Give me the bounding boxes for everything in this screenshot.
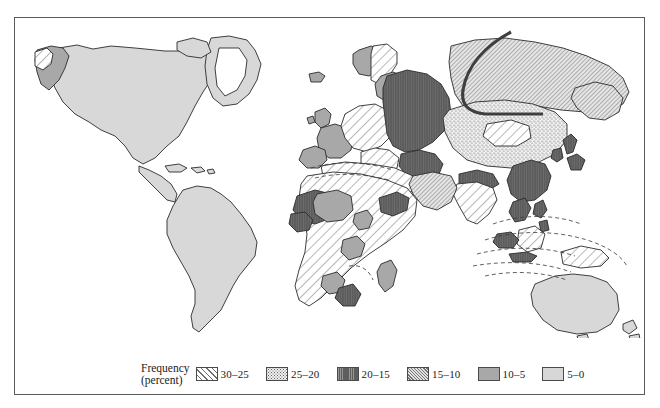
legend-item-20-15[interactable]: 20–15 <box>337 367 391 381</box>
legend-label-30-25: 30–25 <box>221 368 250 380</box>
region-tasmania <box>577 334 589 338</box>
legend-swatch-30-25 <box>196 367 218 381</box>
world-map <box>15 18 644 338</box>
region-caribbean <box>165 164 215 174</box>
region-new-guinea <box>561 246 609 268</box>
legend-item-30-25[interactable]: 30–25 <box>196 367 250 381</box>
region-iceland <box>309 72 325 82</box>
region-indochina <box>509 198 531 222</box>
legend-item-25-20[interactable]: 25–20 <box>266 367 320 381</box>
region-iberia <box>299 146 327 168</box>
legend-swatch-20-15 <box>337 367 359 381</box>
legend-label-5-0: 5–0 <box>567 368 584 380</box>
legend-swatch-15-10 <box>407 367 429 381</box>
map-legend: Frequency (percent) 30–25 25–20 20–15 15… <box>15 354 644 394</box>
legend-label-15-10: 15–10 <box>432 368 461 380</box>
region-greenland <box>205 36 261 106</box>
legend-item-5-0[interactable]: 5–0 <box>542 367 584 381</box>
legend-label-25-20: 25–20 <box>291 368 320 380</box>
legend-swatch-5-0 <box>542 367 564 381</box>
region-south-america <box>167 186 257 332</box>
legend-swatch-25-20 <box>266 367 288 381</box>
legend-label-10-5: 10–5 <box>503 368 526 380</box>
legend-swatch-10-5 <box>478 367 500 381</box>
legend-item-10-5[interactable]: 10–5 <box>478 367 526 381</box>
figure-frame: Frequency (percent) 30–25 25–20 20–15 15… <box>14 17 645 395</box>
region-india-peninsular <box>453 182 497 224</box>
region-new-zealand <box>623 320 641 338</box>
region-south-china <box>507 160 551 202</box>
legend-title: Frequency (percent) <box>141 362 190 386</box>
figure-root: Frequency (percent) 30–25 25–20 20–15 15… <box>0 0 660 408</box>
region-korea <box>551 148 563 162</box>
region-north-america <box>49 45 229 164</box>
region-australia <box>531 274 619 334</box>
region-eastern-europe <box>383 70 451 152</box>
legend-title-line1: Frequency <box>141 362 190 374</box>
legend-title-line2: (percent) <box>141 374 190 386</box>
region-mongolia-basin <box>483 120 531 146</box>
region-british-isles <box>307 108 331 128</box>
legend-label-20-15: 20–15 <box>362 368 391 380</box>
region-madagascar <box>377 260 397 292</box>
region-japan <box>563 134 585 170</box>
world-map-container <box>15 18 644 338</box>
legend-item-15-10[interactable]: 15–10 <box>407 367 461 381</box>
